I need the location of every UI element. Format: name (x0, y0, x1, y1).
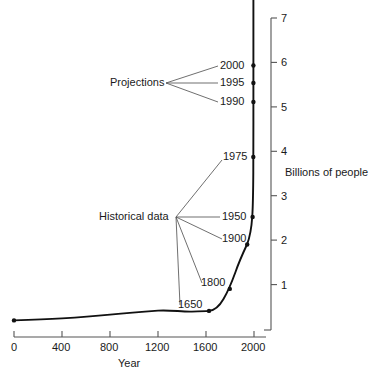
point-label-1995: 1995 (220, 77, 244, 88)
point-label-1990: 1990 (220, 96, 244, 107)
population-curve (14, 0, 253, 320)
population-growth-chart: 0 400 800 1200 1600 2000 Year 7 6 5 4 3 … (0, 0, 376, 374)
y-tick-label-4: 4 (281, 146, 287, 157)
y-tick-label-5: 5 (281, 102, 287, 113)
point-label-1900: 1900 (222, 233, 246, 244)
y-tick-label-6: 6 (281, 57, 287, 68)
point-label-2000: 2000 (220, 60, 244, 71)
point-label-1975: 1975 (223, 151, 247, 162)
annotation-projections: Projections (110, 77, 164, 88)
x-tick-label-1200: 1200 (145, 342, 169, 353)
chart-canvas (0, 0, 376, 374)
y-tick-label-3: 3 (281, 191, 287, 202)
y-axis-title: Billions of people (285, 167, 368, 178)
x-axis (14, 331, 266, 337)
y-tick-label-1: 1 (281, 280, 287, 291)
x-tick-label-0: 0 (11, 342, 17, 353)
point-label-1800: 1800 (201, 277, 225, 288)
projections-leader-lines (166, 66, 218, 102)
x-tick-label-2000: 2000 (241, 342, 265, 353)
annotation-historical-data: Historical data (99, 211, 169, 222)
point-label-1950: 1950 (222, 211, 246, 222)
x-tick-label-1600: 1600 (193, 342, 217, 353)
y-tick-label-2: 2 (281, 235, 287, 246)
y-tick-label-7: 7 (281, 13, 287, 24)
point-label-1650: 1650 (178, 299, 202, 310)
x-axis-title: Year (118, 358, 140, 369)
y-axis (264, 18, 277, 330)
x-tick-label-800: 800 (100, 342, 118, 353)
x-tick-label-400: 400 (52, 342, 70, 353)
